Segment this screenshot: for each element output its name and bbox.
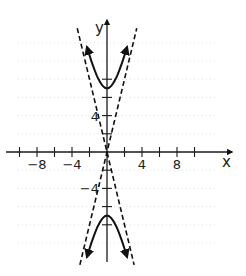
x-axis-label: x [222, 153, 231, 171]
y-axis-label: y [95, 19, 104, 37]
x-tick-label: 8 [173, 157, 181, 172]
asymptote-negative [77, 28, 134, 265]
x-tick-label: −4 [62, 157, 81, 172]
hyperbola-chart: x y −8−4484−4 [0, 0, 246, 276]
axes: x y [6, 19, 232, 262]
asymptote-positive [80, 28, 137, 265]
x-tick-label: −8 [27, 157, 46, 172]
x-tick-label: 4 [138, 157, 146, 172]
grid [18, 43, 215, 243]
